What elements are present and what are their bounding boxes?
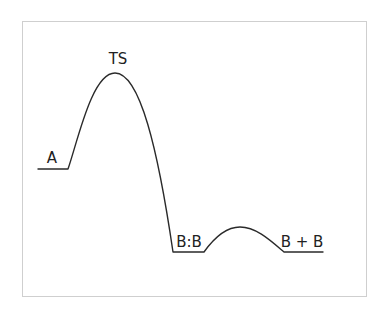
label-intermediate: B:B — [176, 233, 202, 251]
label-reactant: A — [47, 149, 58, 167]
diagram-frame — [23, 22, 367, 297]
label-transition-state: TS — [108, 50, 128, 68]
label-product: B + B — [281, 233, 324, 251]
energy-profile-diagram: A TS B:B B + B — [0, 0, 387, 315]
energy-curve — [38, 73, 323, 252]
